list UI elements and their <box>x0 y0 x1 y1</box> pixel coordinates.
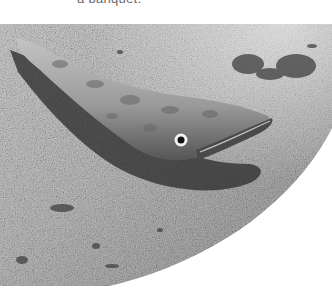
fish-photo-graphic <box>0 24 332 286</box>
caption-text: a banquet. <box>77 0 141 6</box>
fish-photo <box>0 24 332 286</box>
